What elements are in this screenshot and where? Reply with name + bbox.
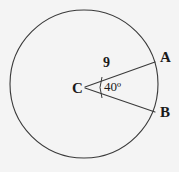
circle-outline [10, 10, 158, 158]
center-label-c: C [72, 81, 83, 96]
central-angle-label: 40º [104, 80, 121, 93]
point-label-b: B [160, 105, 170, 120]
point-label-a: A [160, 50, 171, 65]
diagram-canvas [0, 0, 179, 172]
radius-length-label: 9 [103, 56, 110, 70]
angle-arc-marker [100, 77, 102, 98]
circle-diagram-figure: A B C 9 40º [0, 0, 179, 172]
